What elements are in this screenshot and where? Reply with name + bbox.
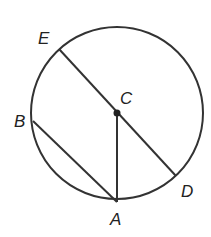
label-B: B xyxy=(14,112,25,131)
center-point-dot xyxy=(114,110,121,117)
label-E: E xyxy=(38,29,50,48)
label-C: C xyxy=(120,89,133,108)
label-D: D xyxy=(181,182,193,201)
circle-diagram: E C B A D xyxy=(0,0,211,237)
label-A: A xyxy=(109,210,121,229)
